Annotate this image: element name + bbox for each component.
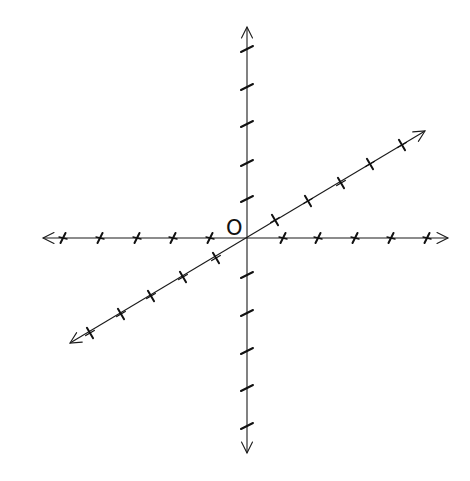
- tick-mark-icon: [271, 215, 280, 225]
- origin-label: O: [226, 216, 243, 240]
- coordinate-axes-diagram: O: [0, 0, 470, 481]
- tick-mark-icon: [366, 159, 375, 169]
- tick-mark-icon: [304, 196, 313, 206]
- tick-mark-icon: [398, 140, 407, 150]
